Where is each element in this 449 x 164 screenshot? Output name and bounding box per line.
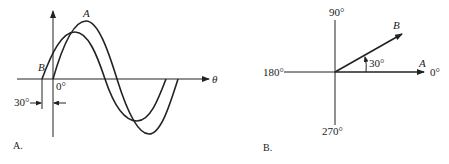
offset-30-label: 30° (14, 96, 29, 108)
angle-30-label: 30° (369, 57, 384, 69)
label-90-degrees: 90° (329, 6, 344, 18)
zero-degree-label: 0° (56, 80, 66, 92)
phasor-b-label: B (393, 19, 400, 31)
panel-b-phasor: 90° 180° 270° 0° A B 30° B. (263, 6, 440, 153)
curve-b-label: B (38, 61, 45, 73)
angle-arc-arrow (365, 57, 366, 72)
label-180-degrees: 180° (263, 66, 284, 78)
label-270-degrees: 270° (322, 125, 343, 137)
phasor-a-label: A (418, 57, 426, 69)
panel-a-waveform: A B θ 0° 30° A. (13, 7, 218, 151)
phase-diagram: A B θ 0° 30° A. 90° 180° 270° 0° A B 30°… (0, 0, 449, 164)
sine-curve-a (53, 21, 178, 134)
theta-label: θ (212, 73, 218, 85)
panel-a-caption: A. (13, 140, 23, 151)
curve-a-label: A (82, 7, 90, 19)
sine-curve-b (42, 32, 166, 121)
label-0-degrees: 0° (430, 66, 440, 78)
panel-b-caption: B. (263, 142, 272, 153)
